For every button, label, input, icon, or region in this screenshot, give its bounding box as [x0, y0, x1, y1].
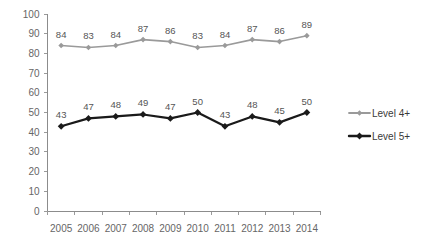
data-point-marker — [276, 119, 283, 126]
data-point-marker — [86, 45, 92, 51]
data-point-label: 86 — [165, 25, 176, 36]
y-axis-tick-label: 50 — [28, 107, 40, 118]
x-axis-tick-label: 2014 — [296, 223, 319, 234]
y-axis-tick-label: 40 — [28, 127, 40, 138]
series-line-level-4 — [61, 36, 307, 48]
x-axis-tick-label: 2008 — [132, 223, 155, 234]
data-point-label: 87 — [138, 23, 149, 34]
data-point-label: 43 — [56, 109, 67, 120]
data-point-marker — [140, 37, 146, 43]
y-axis-tick-label: 90 — [28, 28, 40, 39]
data-point-marker — [113, 43, 119, 49]
data-point-marker — [58, 123, 65, 130]
y-axis-tick-label: 70 — [28, 68, 40, 79]
data-point-label: 84 — [56, 29, 67, 40]
y-axis-tick-label: 30 — [28, 146, 40, 157]
data-point-marker — [167, 115, 174, 122]
data-point-label: 84 — [220, 29, 231, 40]
data-point-label: 45 — [274, 105, 285, 116]
x-axis-tick-label: 2009 — [159, 223, 182, 234]
data-point-label: 48 — [247, 99, 258, 110]
data-point-label: 86 — [274, 25, 285, 36]
x-axis-ticks — [48, 211, 321, 215]
data-point-marker — [112, 113, 119, 120]
data-point-label: 47 — [83, 101, 94, 112]
data-point-marker — [195, 45, 201, 51]
x-axis-tick-label: 2006 — [77, 223, 100, 234]
data-labels-group: 8483848786838487868943474849475043484550 — [56, 19, 312, 121]
data-point-label: 83 — [83, 30, 94, 41]
y-axis-tick-label: 100 — [23, 9, 40, 20]
data-point-label: 43 — [220, 109, 231, 120]
x-axis-tick-label: 2013 — [268, 223, 291, 234]
series-line-level-5 — [61, 113, 307, 127]
legend-swatch-marker — [357, 110, 363, 116]
x-axis-tick-label: 2010 — [187, 223, 210, 234]
data-series-group — [58, 33, 311, 130]
data-point-label: 47 — [165, 101, 176, 112]
data-point-marker — [304, 33, 310, 39]
y-axis-tick-label: 20 — [28, 166, 40, 177]
x-axis-labels: 2005200620072008200920102011201220132014 — [50, 223, 318, 234]
data-point-marker — [277, 39, 283, 45]
data-point-label: 50 — [192, 96, 203, 107]
data-point-marker — [249, 37, 255, 43]
data-point-label: 87 — [247, 23, 258, 34]
data-point-marker — [249, 113, 256, 120]
data-point-label: 49 — [138, 97, 149, 108]
chart-legend: Level 4+Level 5+ — [349, 108, 410, 142]
data-point-label: 50 — [302, 96, 313, 107]
data-point-label: 89 — [302, 19, 313, 30]
data-point-label: 48 — [110, 99, 121, 110]
chart-plot-area: 0102030405060708090100 84838487868384878… — [0, 0, 422, 247]
data-point-marker — [222, 43, 228, 49]
data-point-marker — [168, 39, 174, 45]
data-point-label: 84 — [110, 29, 121, 40]
data-point-marker — [140, 111, 147, 118]
data-point-marker — [303, 109, 310, 116]
data-point-marker — [85, 115, 92, 122]
data-point-marker — [58, 43, 64, 49]
y-axis-tick-label: 10 — [28, 186, 40, 197]
y-axis-tick-label: 0 — [34, 206, 40, 217]
x-axis-tick-label: 2005 — [50, 223, 73, 234]
line-chart: 0102030405060708090100 84838487868384878… — [0, 0, 422, 247]
x-axis-tick-label: 2011 — [214, 223, 236, 234]
y-axis-ticks: 0102030405060708090100 — [23, 9, 48, 217]
x-axis-tick-label: 2007 — [105, 223, 128, 234]
legend-swatch-marker — [356, 133, 363, 140]
y-axis-tick-label: 60 — [28, 87, 40, 98]
legend-item-label[interactable]: Level 5+ — [372, 131, 410, 142]
legend-item-label[interactable]: Level 4+ — [372, 108, 410, 119]
y-axis-tick-label: 80 — [28, 48, 40, 59]
x-axis-tick-label: 2012 — [241, 223, 264, 234]
data-point-label: 83 — [192, 30, 203, 41]
